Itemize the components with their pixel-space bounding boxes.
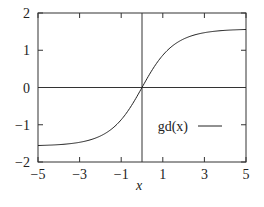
chart: −5−3−1135 −2−1012 x gd(x) <box>0 0 264 207</box>
plot-area <box>38 13 246 162</box>
x-tick-label: 5 <box>243 167 250 182</box>
legend: gd(x) <box>158 119 222 135</box>
x-tick-label: 1 <box>159 167 166 182</box>
y-tick-label: −2 <box>15 155 30 170</box>
y-tick-label: 0 <box>23 81 30 96</box>
x-axis-label: x <box>135 178 143 193</box>
y-tick-label: 1 <box>23 43 30 58</box>
x-tick-label: −3 <box>72 167 87 182</box>
x-tick-label: 3 <box>201 167 208 182</box>
x-tick-label: −1 <box>114 167 129 182</box>
x-tick-label: −5 <box>31 167 46 182</box>
legend-label: gd(x) <box>158 119 189 135</box>
y-tick-label: 2 <box>23 6 30 21</box>
x-axis-ticks: −5−3−1135 <box>31 13 250 182</box>
y-tick-label: −1 <box>15 118 30 133</box>
